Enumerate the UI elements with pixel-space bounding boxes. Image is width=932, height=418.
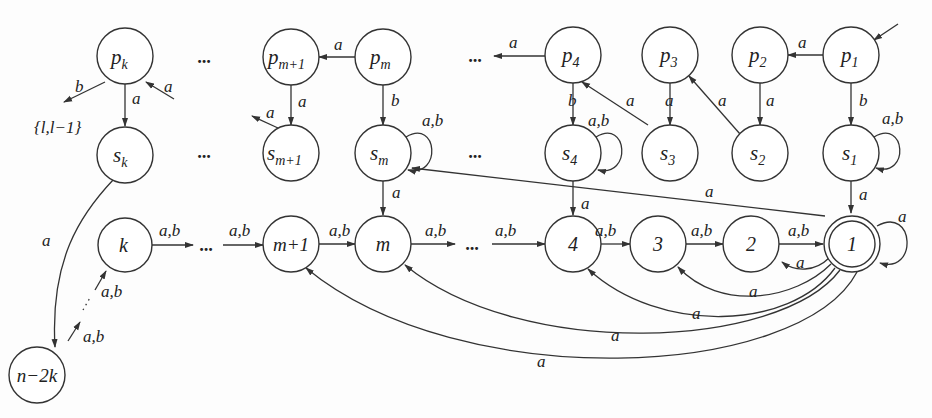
- edge-label-pk-b: b: [75, 77, 84, 96]
- start-arrow: [874, 24, 898, 40]
- edge-label-1-2: a: [796, 253, 805, 272]
- edge-label-sm1-a: a: [266, 103, 275, 122]
- edge-label-p1-a: a: [798, 33, 807, 52]
- edge-label-k-next: a,b: [159, 221, 180, 240]
- edge-label-m1-m: a,b: [329, 221, 350, 240]
- edge-pk-set: [64, 82, 105, 102]
- edge-label-3-2: a,b: [691, 221, 712, 240]
- ellipsis-bottom-left: ...: [200, 235, 214, 255]
- dotted-chain: [83, 296, 91, 310]
- edge-label-1-sm: a: [705, 182, 714, 201]
- edge-label-sk-a: a: [42, 231, 51, 250]
- ellipsis-mid-left: ...: [198, 142, 212, 162]
- label-2: 2: [746, 233, 756, 255]
- edge-label-in-pk-a: a: [164, 77, 173, 96]
- edge-s2-p3: [689, 76, 740, 134]
- automaton-diagram: pk sk k n−2k pm+1 sm+1 pm sm p4 s4 p3 s3…: [0, 0, 932, 418]
- edge-1-4: [588, 268, 835, 317]
- edge-1-2: [782, 258, 829, 269]
- edge-label-s1-a: a: [859, 185, 868, 204]
- edge-label-m-next: a,b: [425, 221, 446, 240]
- label-m: m: [376, 233, 390, 255]
- label-m1: m+1: [273, 234, 309, 255]
- ellipsis-bottom-right: ...: [466, 234, 480, 254]
- edge-label-1-m: a: [611, 326, 620, 345]
- label-n-2k: n−2k: [17, 365, 58, 386]
- label-k: k: [119, 234, 129, 256]
- edge-label-prev-m1: a,b: [229, 221, 250, 240]
- edge-label-sm-loop: a,b: [422, 111, 443, 130]
- edge-label-p4-a: a: [509, 33, 518, 52]
- edge-label-p2-a: a: [766, 91, 775, 110]
- edge-label-prev-4: a,b: [495, 221, 516, 240]
- ellipsis-top-left: ...: [198, 47, 212, 67]
- label-1: 1: [847, 233, 857, 255]
- label-3: 3: [652, 233, 663, 255]
- ellipsis-mid-right: ...: [469, 142, 483, 162]
- edge-1-m: [405, 265, 840, 333]
- edge-label-s1-loop: a,b: [882, 109, 903, 128]
- edge-label-p4-b: b: [568, 91, 577, 110]
- edge-label-s2-a: a: [718, 91, 727, 110]
- edge-label-set: {l,l−1}: [34, 118, 81, 137]
- edge-n2k-chain: [68, 322, 80, 341]
- state-pk: [97, 28, 153, 84]
- edge-label-2-1: a,b: [788, 221, 809, 240]
- edge-label-s4-a: a: [581, 194, 590, 213]
- edge-label-4-3: a,b: [595, 221, 616, 240]
- edge-label-sm-a: a: [392, 183, 401, 202]
- edge-label-s4-loop: a,b: [588, 111, 609, 130]
- edge-label-pm-b: b: [391, 91, 400, 110]
- diagram-canvas: pk sk k n−2k pm+1 sm+1 pm sm p4 s4 p3 s3…: [0, 0, 932, 418]
- edge-label-1-3: a: [749, 282, 758, 301]
- edge-label-p1-b: b: [859, 91, 868, 110]
- edge-label-1-4: a: [692, 304, 701, 323]
- edge-label-pm1-a: a: [298, 92, 307, 111]
- ellipsis-top-right: ...: [469, 46, 483, 66]
- edge-sk-n2k: [54, 180, 113, 347]
- edge-label-chain-k: a,b: [101, 282, 122, 301]
- edge-label-1-loop: a: [898, 207, 907, 226]
- nodes: [9, 27, 880, 403]
- edge-label-n2k-chain: a,b: [83, 327, 104, 346]
- edge-label-pm-a: a: [334, 35, 343, 54]
- edge-label-1-m1: a: [537, 352, 546, 371]
- edge-labels: b a a {l,l−1} a a a b a,b a a b a,b a a …: [34, 33, 907, 371]
- edge-label-s3-a: a: [626, 91, 635, 110]
- label-4: 4: [568, 233, 578, 255]
- edge-label-p3-a: a: [665, 91, 674, 110]
- edge-label-pk-a: a: [132, 89, 141, 108]
- loop-1: [877, 222, 907, 264]
